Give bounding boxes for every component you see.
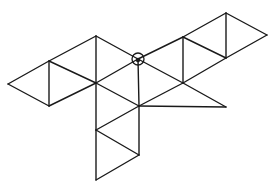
net-edge-LM [139, 106, 226, 107]
net-svg [0, 0, 270, 194]
net-edge-IJ [226, 35, 267, 58]
net-edge-BD [49, 36, 96, 61]
net-edge-NO [96, 130, 139, 155]
net-edge-CE [49, 83, 96, 106]
net-edge-GI [183, 37, 226, 58]
net-edge-AB [8, 61, 49, 84]
net-edge-EF [96, 59, 138, 83]
marker-dot [136, 58, 140, 62]
net-edge-FK [138, 59, 183, 83]
net-edge-KL [139, 83, 183, 106]
net-edge-FG [138, 37, 183, 59]
net-edge-AC [8, 84, 49, 106]
net-edges [8, 13, 267, 180]
net-edge-EL [96, 83, 139, 106]
net-edge-KM [183, 83, 226, 107]
net-edge-FL [138, 59, 139, 106]
net-edge-LN [96, 106, 139, 130]
polyhedron-net-diagram [0, 0, 270, 194]
net-edge-DF [96, 36, 138, 59]
net-edge-HJ [226, 13, 267, 35]
net-edge-IK [183, 58, 226, 83]
net-edge-GH [183, 13, 226, 37]
net-edge-OP [96, 155, 139, 180]
net-edge-BE [49, 61, 96, 83]
